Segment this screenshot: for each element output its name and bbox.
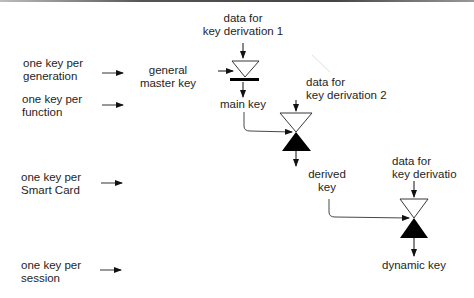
dynamic-key-label: dynamic key [374,259,454,272]
level-label-generation: one key pergeneration [23,57,83,83]
diagram-canvas [0,0,474,298]
general-master-key-label: generalmaster key [137,64,199,90]
derivation-stage-1 [218,43,259,97]
input-label-derivation-1: data forkey derivation 1 [193,12,293,38]
scan-artifact [312,55,330,72]
derived-key-label: derivedkey [302,168,352,194]
main-key-label: main key [213,98,273,111]
output-triangle-icon [400,218,428,238]
derivation-triangle-icon [232,61,259,77]
level-label-session: one key persession [21,259,81,285]
output-triangle-icon [282,132,311,151]
level-arrows [100,73,123,270]
level-label-function: one key perfunction [22,93,82,119]
input-triangle-icon [280,113,312,132]
level-label-smart-card: one key perSmart Card [21,171,81,197]
input-label-derivation-3: data forkey derivatio [392,155,457,181]
bar-icon [230,78,259,81]
input-label-derivation-2: data forkey derivation 2 [306,76,387,102]
input-triangle-icon [400,199,428,218]
